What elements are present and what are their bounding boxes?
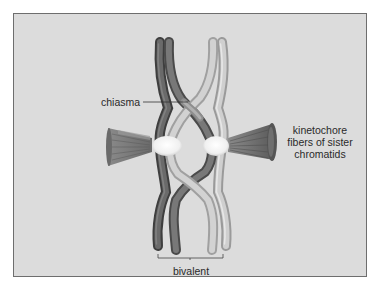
kinetochore-label-line1: kinetochore	[280, 124, 360, 136]
kinetochore-fiber-left	[106, 128, 152, 166]
centromere-right	[203, 136, 229, 156]
centromere-left	[152, 136, 182, 156]
bivalent-bracket	[158, 254, 223, 260]
chiasma-label: chiasma	[101, 96, 140, 108]
bivalent-label: bivalent	[168, 265, 214, 277]
kinetochore-fiber-right	[228, 123, 277, 161]
kinetochore-label-line3: chromatids	[280, 148, 360, 160]
kinetochore-fibers-label: kinetochore fibers of sister chromatids	[280, 124, 360, 160]
kinetochore-label-line2: fibers of sister	[280, 136, 360, 148]
